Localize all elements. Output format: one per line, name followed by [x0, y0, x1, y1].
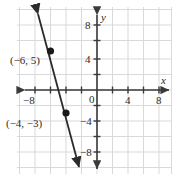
- point-label-a: (−6, 5): [10, 55, 40, 66]
- y-tick-label-8: 8: [85, 20, 91, 31]
- point-label-b: (−4, −3): [6, 118, 42, 129]
- data-point-a: [47, 47, 54, 54]
- x-tick-label-4: 4: [125, 95, 131, 106]
- y-tick-label-4: 4: [85, 54, 91, 65]
- coordinate-plane-figure: −8 0 4 8 8 4 −4 −8 x y (−6, 5) (−4, −3): [0, 0, 178, 181]
- x-tick-label-8: 8: [156, 95, 162, 106]
- origin-label: 0: [89, 94, 95, 105]
- x-tick-label-neg8: −8: [23, 95, 35, 106]
- y-tick-label-neg8: −8: [80, 147, 92, 158]
- y-tick-label-neg4: −4: [80, 116, 92, 127]
- data-point-b: [62, 109, 69, 116]
- x-axis-name: x: [161, 75, 166, 86]
- y-axis-name: y: [101, 12, 106, 23]
